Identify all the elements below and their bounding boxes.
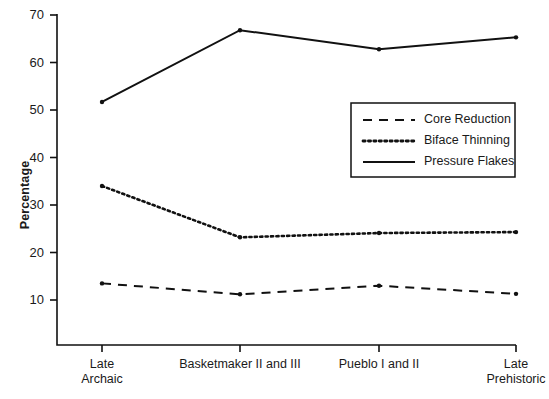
x-tick-label-line: Late	[486, 357, 545, 372]
data-point	[238, 28, 242, 32]
data-point	[100, 184, 104, 188]
data-point	[377, 284, 381, 288]
axis-spines	[57, 14, 516, 345]
y-tick-label: 50	[4, 102, 44, 117]
data-point	[514, 35, 518, 39]
data-point	[514, 292, 518, 296]
y-tick-label: 70	[4, 7, 44, 22]
x-tick-label: Pueblo I and II	[339, 357, 420, 372]
data-point	[377, 47, 381, 51]
series-line	[102, 283, 516, 294]
legend-entry-label: Biface Thinning	[424, 133, 510, 147]
data-point	[238, 292, 242, 296]
data-point	[377, 231, 381, 235]
x-tick-label-line: Basketmaker II and III	[179, 357, 301, 372]
series-line	[102, 186, 516, 237]
x-tick-label-line: Prehistoric	[486, 372, 545, 387]
y-tick-label: 20	[4, 245, 44, 260]
line-chart: Percentage 10203040506070 LateArchaicBas…	[0, 0, 549, 399]
x-axis-ticks	[102, 345, 516, 352]
y-tick-label: 30	[4, 197, 44, 212]
legend-entry-label: Core Reduction	[424, 112, 511, 126]
y-tick-label: 10	[4, 292, 44, 307]
x-tick-label: LateArchaic	[81, 357, 123, 387]
data-point	[514, 230, 518, 234]
plot-area	[0, 0, 549, 399]
data-point	[238, 235, 242, 239]
x-tick-label: Basketmaker II and III	[179, 357, 301, 372]
x-tick-label: LatePrehistoric	[486, 357, 545, 387]
y-tick-label: 40	[4, 150, 44, 165]
x-tick-label-line: Archaic	[81, 372, 123, 387]
x-tick-label-line: Pueblo I and II	[339, 357, 420, 372]
data-point	[100, 100, 104, 104]
x-tick-label-line: Late	[81, 357, 123, 372]
data-point	[100, 281, 104, 285]
y-tick-label: 60	[4, 55, 44, 70]
series-line	[102, 30, 516, 102]
legend-entry-label: Pressure Flakes	[424, 154, 514, 168]
y-axis-ticks	[50, 15, 57, 300]
